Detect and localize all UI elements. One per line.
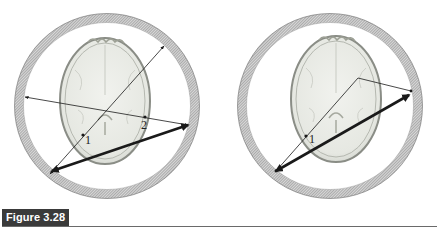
figure-caption-label: Figure 3.28	[2, 209, 69, 226]
caption-divider	[2, 226, 437, 227]
left-panel: 1 2	[15, 14, 200, 199]
right-panel: 1	[238, 14, 423, 199]
brain-slice-image	[291, 36, 381, 162]
detection-point	[410, 90, 413, 93]
annihilation-point-1	[304, 134, 307, 137]
point-label-2: 2	[141, 118, 147, 132]
figure-caption-bar: Figure 3.28	[0, 209, 437, 228]
point-label-1: 1	[309, 132, 315, 146]
point-label-1: 1	[85, 133, 91, 147]
figure-diagram: 1 2 1	[0, 0, 437, 205]
brain-slice-image	[60, 38, 150, 164]
